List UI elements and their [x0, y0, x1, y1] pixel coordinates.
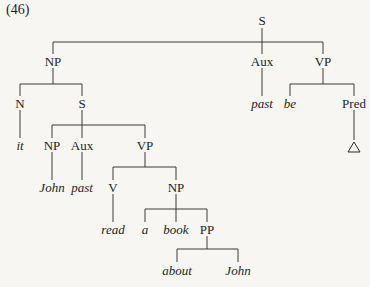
node-s-root: S [258, 14, 265, 27]
node-vp-embedded: VP [137, 139, 154, 152]
node-np: NP [45, 55, 62, 68]
node-v: V [108, 181, 117, 194]
word-it: it [16, 139, 23, 152]
word-a: a [142, 223, 149, 236]
word-be: be [284, 97, 296, 110]
node-s-embedded: S [78, 97, 85, 110]
node-np-subject: NP [44, 139, 61, 152]
word-john-object: John [225, 264, 250, 277]
word-past-embedded: past [71, 181, 93, 194]
node-vp: VP [315, 55, 332, 68]
node-np-object: NP [168, 181, 185, 194]
word-book: book [163, 223, 188, 236]
node-aux: Aux [251, 55, 273, 68]
node-pp: PP [200, 223, 214, 236]
node-n: N [15, 97, 24, 110]
word-past-matrix: past [251, 97, 273, 110]
node-pred: Pred [342, 97, 366, 110]
triangle-icon [347, 141, 361, 153]
word-john-subject: John [39, 181, 64, 194]
node-aux-embedded: Aux [71, 139, 93, 152]
word-read: read [101, 223, 124, 236]
word-about: about [162, 264, 192, 277]
